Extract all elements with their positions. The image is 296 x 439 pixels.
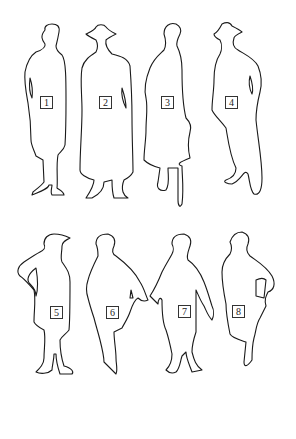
figure-label-3: 3 — [161, 96, 174, 109]
silhouette-3 — [144, 23, 191, 206]
silhouette-figure-illustration: 1 2 3 4 5 6 7 8 — [0, 0, 296, 439]
silhouette-2 — [80, 25, 133, 198]
silhouette-6 — [87, 234, 149, 374]
silhouette-7 — [150, 234, 214, 373]
figure-label-8: 8 — [232, 305, 245, 318]
figure-label-6: 6 — [106, 306, 119, 319]
silhouette-5 — [18, 234, 73, 374]
figure-label-2: 2 — [99, 96, 112, 109]
figure-label-1: 1 — [40, 96, 53, 109]
silhouettes-canvas — [0, 0, 296, 439]
figure-label-5: 5 — [50, 306, 63, 319]
figure-label-7: 7 — [178, 305, 191, 318]
silhouette-8 — [222, 232, 274, 366]
figure-label-4: 4 — [225, 96, 238, 109]
silhouette-1 — [25, 24, 66, 195]
